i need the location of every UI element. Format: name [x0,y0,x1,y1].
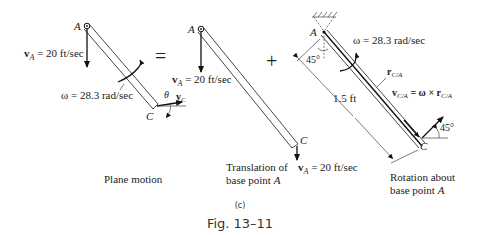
plus-operator: + [266,50,277,72]
label-vA: vA = 20 ft/sec [172,73,232,88]
label-angle-top: 45° [306,54,320,65]
label-vCA-equation: vC/A = ω × rC/A [392,87,453,100]
angle-arc-bottom-icon [437,129,439,138]
label-length: 1.5 ft [333,92,356,104]
velocity-C-arrow-icon [157,102,182,106]
panel-title-translation-line2: base point A [226,174,281,186]
label-point-A: A [73,20,81,32]
label-vC: vC [176,91,186,104]
kinematics-diagram: A vA = 20 ft/sec ω = 28.3 rad/sec C θ vC… [0,0,480,235]
label-point-C: C [146,110,154,122]
bar-AC-translation [198,27,298,148]
panel-title-plane-motion: Plane motion [104,173,163,185]
subfigure-label: (c) [235,201,246,210]
label-point-A: A [309,26,317,38]
r-leader-line [377,78,386,87]
dimension-line [298,58,353,116]
label-omega: ω = 28.3 rad/sec [61,89,133,101]
figure-caption: Fig. 13–11 [207,216,273,231]
label-point-A: A [187,23,195,35]
panel-title-translation-line1: Translation of [226,161,288,173]
extension-line-C [391,150,418,163]
label-rCA: rC/A [387,66,403,79]
label-theta: θ [164,89,169,100]
angular-velocity-arrow-icon [340,53,356,71]
label-omega: ω = 28.3 rad/sec [353,34,425,46]
label-vA: vA = 20 ft/sec [24,47,84,62]
angle-arc-top-icon [318,48,328,51]
panel-title-rotation-line1: Rotation about [390,171,455,183]
panel-title-rotation-line2: base point A [390,184,445,196]
label-point-C: C [420,140,428,152]
label-vA-bottom: vA = 20 ft/sec [298,161,358,176]
label-point-C: C [300,134,308,146]
panel-translation: A vA = 20 ft/sec C vA = 20 ft/sec Transl… [172,23,358,186]
equals-operator: = [155,45,166,67]
label-angle-bottom: 45° [440,122,454,133]
